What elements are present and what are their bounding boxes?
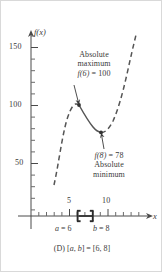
curve-solid-interval (79, 105, 101, 132)
min-annotation: f(8) = 78 Absolute minimum (71, 151, 147, 179)
caption-suffix: ] = [6, 8] (82, 244, 111, 253)
caption-prefix: (D) [ (54, 244, 70, 253)
max-function-notation: f(6) (77, 69, 89, 78)
interval-right-value: = 8 (97, 224, 110, 233)
figure-caption: (D) [a, b] = [6, 8] (1, 244, 162, 253)
x-axis-label: x (153, 211, 157, 221)
y-axis-major-ticks (31, 48, 38, 164)
y-tick-label-50: 50 (15, 158, 23, 167)
graph-canvas (1, 1, 162, 272)
x-tick-label-5: 5 (67, 196, 71, 205)
y-axis (28, 30, 34, 229)
min-annotation-line2: Absolute (71, 160, 147, 169)
max-annotation: Absolute maximum f(6) = 100 (57, 50, 131, 78)
max-annotation-arrow (74, 85, 80, 105)
interval-left-label: a = 6 (55, 224, 72, 233)
y-axis-label: f(x) (34, 27, 46, 37)
min-annotation-value: f(8) = 78 (71, 151, 147, 160)
x-axis-major-ticks (70, 209, 109, 216)
max-annotation-value: f(6) = 100 (57, 69, 131, 78)
min-point-marker (99, 131, 103, 135)
y-tick-label-150: 150 (9, 42, 22, 51)
min-function-value: = 78 (106, 151, 123, 160)
max-function-value: = 100 (89, 69, 110, 78)
max-annotation-line2: maximum (57, 59, 131, 68)
min-annotation-line3: minimum (71, 170, 147, 179)
y-tick-label-100: 100 (9, 100, 22, 109)
y-axis-minor-ticks (31, 36, 35, 210)
x-tick-label-10: 10 (102, 196, 110, 205)
min-function-notation: f(8) (95, 151, 107, 160)
max-annotation-line1: Absolute (57, 50, 131, 59)
min-annotation-arrow (100, 133, 105, 149)
interval-left-value: = 6 (59, 224, 72, 233)
figure-container: f(x) x 150 100 50 5 10 Absolute maximum … (0, 0, 162, 272)
interval-right-label: b = 8 (93, 224, 110, 233)
